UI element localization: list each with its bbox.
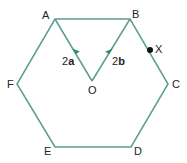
- vertex-label-d: D: [134, 146, 142, 157]
- vector-label-2b: 2b: [112, 56, 125, 67]
- vector-symbol-b: b: [118, 55, 125, 67]
- center-label-o: O: [88, 85, 97, 96]
- hexagon-figure: [0, 0, 187, 163]
- arrow-ob-icon: [105, 49, 113, 55]
- point-label-x: X: [155, 44, 162, 55]
- point-x-marker: [147, 47, 153, 53]
- hexagon-diagram: A B C D E F O X 2a 2b: [0, 0, 187, 163]
- vertex-label-f: F: [7, 79, 14, 90]
- vector-label-2a: 2a: [62, 56, 74, 67]
- vertex-label-c: C: [172, 79, 180, 90]
- vertex-label-b: B: [132, 9, 139, 20]
- vertex-label-e: E: [44, 146, 51, 157]
- hexagon-outline: [17, 19, 168, 147]
- vertex-label-a: A: [42, 10, 49, 21]
- vector-symbol-a: a: [68, 55, 74, 67]
